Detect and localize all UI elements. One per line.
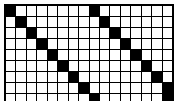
grid-cell-empty — [68, 28, 78, 39]
grid-cell-empty — [79, 39, 89, 50]
grid-cell-empty — [89, 50, 99, 61]
grid-cell-filled — [152, 72, 162, 83]
grid-cell-empty — [152, 61, 162, 72]
grid-cell-empty — [37, 61, 47, 72]
grid-row — [6, 50, 173, 61]
grid-cell-empty — [16, 83, 26, 94]
grid-cell-empty — [89, 28, 99, 39]
grid-body — [6, 6, 173, 102]
grid-cell-empty — [37, 83, 47, 94]
grid-cell-empty — [16, 28, 26, 39]
grid-cell-filled — [99, 17, 109, 28]
grid-cell-empty — [6, 39, 16, 50]
grid-cell-empty — [58, 6, 68, 17]
grid-cell-empty — [141, 39, 151, 50]
grid-cell-filled — [47, 50, 57, 61]
grid-cell-empty — [99, 94, 109, 102]
grid-cell-empty — [110, 6, 120, 17]
grid-cell-empty — [37, 94, 47, 102]
grid-cell-filled — [120, 39, 130, 50]
grid-cell-empty — [131, 72, 141, 83]
grid-cell-filled — [141, 61, 151, 72]
grid-cell-filled — [162, 94, 172, 102]
grid-cell-filled — [58, 61, 68, 72]
grid-cell-empty — [47, 39, 57, 50]
grid-cell-empty — [58, 28, 68, 39]
grid-cell-empty — [58, 17, 68, 28]
grid-cell-empty — [68, 61, 78, 72]
grid-border — [4, 4, 174, 101]
grid-cell-empty — [120, 72, 130, 83]
grid-cell-empty — [68, 6, 78, 17]
grid-cell-empty — [6, 28, 16, 39]
grid-cell-empty — [152, 28, 162, 39]
grid-cell-empty — [141, 83, 151, 94]
grid-cell-empty — [152, 50, 162, 61]
grid-cell-empty — [131, 6, 141, 17]
grid-cell-empty — [58, 94, 68, 102]
grid-cell-empty — [110, 50, 120, 61]
grid-cell-filled — [89, 94, 99, 102]
grid-cell-empty — [152, 6, 162, 17]
grid-cell-empty — [37, 6, 47, 17]
grid-cell-empty — [99, 72, 109, 83]
grid-cell-empty — [16, 6, 26, 17]
grid-cell-empty — [131, 28, 141, 39]
grid-cell-empty — [89, 72, 99, 83]
grid-cell-empty — [37, 28, 47, 39]
grid-cell-filled — [68, 72, 78, 83]
grid-cell-empty — [141, 94, 151, 102]
grid-cell-empty — [58, 50, 68, 61]
grid-cell-empty — [26, 6, 36, 17]
grid-cell-empty — [131, 17, 141, 28]
grid-cell-empty — [99, 28, 109, 39]
grid-cell-empty — [89, 39, 99, 50]
grid-cell-empty — [16, 50, 26, 61]
grid-cell-empty — [110, 17, 120, 28]
grid-cell-empty — [120, 50, 130, 61]
grid-row — [6, 72, 173, 83]
grid-cell-empty — [152, 94, 162, 102]
grid-cell-empty — [68, 94, 78, 102]
grid-cell-empty — [26, 39, 36, 50]
grid-cell-empty — [99, 50, 109, 61]
grid-cell-empty — [99, 39, 109, 50]
grid-row — [6, 39, 173, 50]
grid-cell-empty — [58, 83, 68, 94]
grid-cell-filled — [162, 83, 172, 94]
grid-cell-empty — [110, 83, 120, 94]
grid-row — [6, 83, 173, 94]
grid-cell-empty — [6, 72, 16, 83]
grid-cell-filled — [131, 50, 141, 61]
grid-cell-empty — [89, 17, 99, 28]
grid-cell-empty — [37, 50, 47, 61]
grid-cell-empty — [110, 61, 120, 72]
grid-row — [6, 17, 173, 28]
grid-cell-empty — [131, 61, 141, 72]
grid-cell-empty — [68, 83, 78, 94]
grid-cell-empty — [162, 6, 172, 17]
grid-cell-empty — [162, 17, 172, 28]
cell-grid — [5, 5, 173, 101]
grid-cell-empty — [68, 39, 78, 50]
grid-cell-filled — [89, 6, 99, 17]
grid-cell-empty — [68, 17, 78, 28]
grid-cell-filled — [26, 28, 36, 39]
grid-cell-empty — [47, 61, 57, 72]
grid-cell-empty — [162, 39, 172, 50]
grid-cell-filled — [6, 6, 16, 17]
grid-cell-empty — [6, 83, 16, 94]
grid-cell-empty — [47, 83, 57, 94]
grid-cell-empty — [141, 28, 151, 39]
grid-cell-empty — [110, 39, 120, 50]
grid-cell-empty — [68, 50, 78, 61]
grid-cell-empty — [37, 72, 47, 83]
grid-row — [6, 61, 173, 72]
grid-cell-empty — [162, 28, 172, 39]
grid-cell-empty — [26, 83, 36, 94]
grid-cell-empty — [162, 50, 172, 61]
grid-cell-empty — [47, 17, 57, 28]
grid-cell-empty — [58, 39, 68, 50]
grid-cell-empty — [99, 83, 109, 94]
grid-cell-filled — [37, 39, 47, 50]
